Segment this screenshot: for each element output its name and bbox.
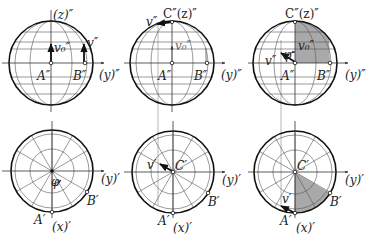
front-view-right: C″(z)″ (y)″ A″ B″ v₀″ v″ φ [248, 7, 366, 105]
label-point-b: B′ [86, 194, 99, 208]
label-x-axis: (x)′ [173, 221, 192, 235]
sphere-projection-diagram: (z)″ (y)″ A″ B″ v₀″ v″ C″(z)″ (y)″ A″ B″ [0, 0, 372, 243]
label-point-b: B′ [207, 195, 220, 209]
label-c-z-axis: C″(z)″ [163, 7, 197, 21]
top-view-middle: C′ (y)′ (x)′ A′ B′ v′ [124, 121, 241, 235]
label-v0: v₀″ [298, 39, 315, 53]
label-v: v′ [147, 158, 157, 172]
top-view-left: (y)′ (x)′ A′ B′ φ [2, 121, 120, 234]
label-y-axis: (y)″ [345, 68, 366, 82]
label-point-b: B′ [329, 195, 342, 209]
shaded-sector [295, 172, 330, 213]
label-point-a: A′ [33, 213, 46, 227]
label-center-c: C′ [175, 159, 187, 173]
label-v: v″ [265, 54, 277, 68]
label-c-z-axis: C″(z)″ [285, 7, 319, 21]
front-view-middle: C″(z)″ (y)″ A″ B″ v₀″ v″ [124, 7, 242, 112]
label-x-axis: (x)′ [296, 221, 315, 235]
label-phi: φ [51, 175, 60, 189]
label-y-axis: (y)″ [221, 68, 242, 82]
label-v: v″ [146, 15, 158, 29]
label-point-a: A′ [157, 214, 170, 228]
front-view-left: (z)″ (y)″ A″ B″ v₀″ v″ [2, 8, 120, 112]
label-y-axis: (y)′ [345, 173, 364, 187]
top-view-right: C′ (y)′ (x)′ A′ B′ v′ [248, 121, 364, 235]
label-z-axis: (z)″ [53, 8, 74, 22]
label-v: v″ [87, 36, 99, 50]
label-v: v′ [282, 192, 292, 206]
label-y-axis: (y)′ [222, 173, 241, 187]
label-phi: φ [283, 48, 292, 62]
label-v0: v₀″ [175, 39, 192, 53]
label-y-axis: (y)″ [99, 68, 120, 82]
label-point-a: A″ [36, 69, 51, 83]
label-v0: v₀″ [54, 41, 71, 55]
label-point-a: A″ [280, 69, 295, 83]
label-point-b: B″ [316, 69, 331, 83]
label-point-b: B″ [193, 69, 208, 83]
label-y-axis: (y)′ [101, 172, 120, 186]
label-point-a: A″ [157, 69, 172, 83]
label-x-axis: (x)′ [52, 220, 71, 234]
label-center-c: C′ [297, 159, 309, 173]
label-point-a: A′ [279, 214, 292, 228]
label-point-b: B″ [72, 69, 87, 83]
